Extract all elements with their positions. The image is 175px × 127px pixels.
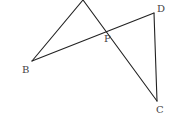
segment-ab (32, 0, 83, 61)
segment-bd (32, 13, 154, 61)
segment-dc (154, 13, 157, 101)
label-p: P (104, 33, 111, 44)
segment-ac (83, 0, 157, 101)
label-d: D (157, 3, 165, 14)
label-c: C (156, 104, 164, 115)
geometry-diagram: B P D C (0, 0, 175, 127)
label-b: B (22, 64, 29, 75)
